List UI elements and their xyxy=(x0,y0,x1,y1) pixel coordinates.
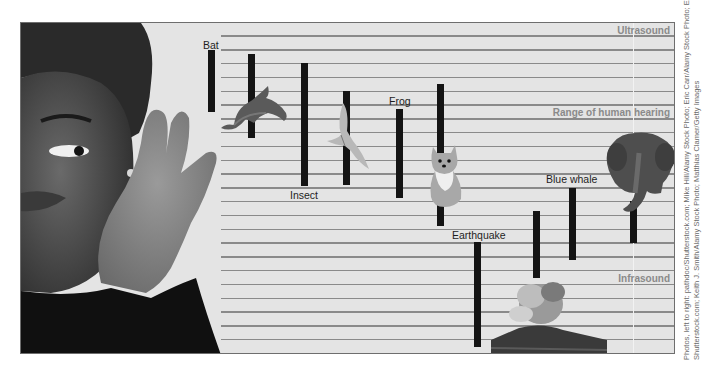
hearing-range-diagram: Bat Insect Frog Earthquake Blue whale Ul… xyxy=(20,22,675,354)
bird-photo xyxy=(323,101,373,173)
photo-credit-line-1: Photos, left to right: pathdoc/Shutterst… xyxy=(682,10,692,360)
zone-infrasound: Infrasound xyxy=(618,273,670,284)
photo-credit-line-2: Shutterstock.com; Keith J. Smith/Alamy S… xyxy=(692,10,702,360)
person-listening-photo xyxy=(21,23,221,354)
volcano-photo xyxy=(491,278,611,354)
dolphin-photo xyxy=(216,83,291,133)
range-bar-frog xyxy=(396,109,403,198)
elephant-photo xyxy=(603,127,675,215)
label-earthquake: Earthquake xyxy=(452,229,506,241)
photo-credit: Photos, left to right: pathdoc/Shutterst… xyxy=(682,10,702,360)
range-bar-volcano xyxy=(533,211,540,278)
range-bar-bat xyxy=(208,50,215,112)
range-bar-earthquake xyxy=(474,242,481,347)
label-blue-whale: Blue whale xyxy=(546,173,597,185)
zone-human-hearing-range: Range of human hearing xyxy=(553,107,670,118)
label-frog: Frog xyxy=(389,95,411,107)
zone-ultrasound: Ultrasound xyxy=(617,25,670,36)
range-bar-insect xyxy=(301,63,308,186)
dog-photo xyxy=(425,143,465,209)
label-insect: Insect xyxy=(290,189,318,201)
label-bat: Bat xyxy=(203,39,219,51)
range-bar-blue-whale xyxy=(569,188,576,260)
